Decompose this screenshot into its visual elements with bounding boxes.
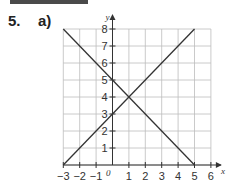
y-tick-label: 3 (101, 108, 107, 120)
y-tick-label: 7 (101, 40, 107, 52)
x-tick-label: 4 (175, 170, 181, 182)
y-tick-label: 8 (101, 23, 107, 35)
x-tick-label: −2 (73, 170, 86, 182)
x-tick-label: −1 (90, 170, 103, 182)
x-axis-label: x (220, 166, 225, 176)
x-tick-label: 6 (208, 170, 214, 182)
y-axis-label: y (105, 12, 110, 22)
axes (63, 14, 222, 168)
x-tick-label: 5 (191, 170, 197, 182)
origin-label: 0 (106, 168, 111, 178)
x-tick-label: −3 (57, 170, 70, 182)
y-tick-label: 5 (101, 74, 107, 86)
y-tick-label: 2 (101, 125, 107, 137)
line-graph: −3−2−1123456123456780xy (0, 0, 235, 184)
y-tick-label: 1 (101, 142, 107, 154)
x-tick-label: 2 (142, 170, 148, 182)
grid-lines (63, 29, 211, 165)
x-tick-label: 1 (126, 170, 132, 182)
y-tick-label: 4 (101, 91, 107, 103)
y-tick-label: 6 (101, 57, 107, 69)
y-axis-arrow-icon (110, 14, 116, 20)
x-tick-label: 3 (159, 170, 165, 182)
